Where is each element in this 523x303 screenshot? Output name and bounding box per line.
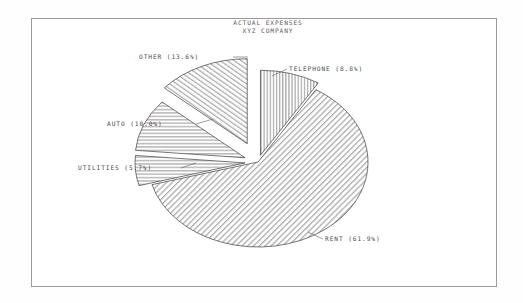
- slice-label-utilities: UTILITIES (5.7%): [78, 164, 152, 171]
- chart-page: ACTUAL EXPENSES XYZ COMPANY OTHER (13.6%…: [0, 0, 523, 303]
- chart-subtitle: XYZ COMPANY: [243, 27, 294, 34]
- slice-label-auto: AUTO (10.0%): [107, 120, 163, 127]
- slice-label-rent: RENT (61.9%): [325, 235, 381, 242]
- slice-label-other: OTHER (13.6%): [139, 53, 199, 60]
- pie-slices-group: [135, 59, 368, 247]
- slice-label-telephone: TELEPHONE (8.8%): [289, 65, 363, 72]
- chart-title: ACTUAL EXPENSES: [233, 19, 302, 26]
- leader-line: [196, 119, 213, 124]
- pie-chart: ACTUAL EXPENSES XYZ COMPANY OTHER (13.6%…: [0, 0, 523, 303]
